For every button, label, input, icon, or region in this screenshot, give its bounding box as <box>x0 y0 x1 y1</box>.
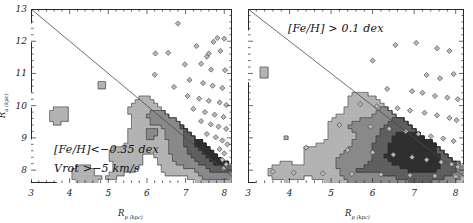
data-point <box>445 95 450 100</box>
data-point <box>191 106 196 111</box>
data-point <box>222 151 227 156</box>
contour-plot-right <box>248 9 464 183</box>
data-point <box>211 39 216 44</box>
data-point <box>395 106 400 111</box>
x-axis-label-sub-left: p (kpc) <box>124 214 142 220</box>
data-point <box>224 126 229 131</box>
data-point <box>447 48 452 53</box>
data-point <box>220 85 225 90</box>
x-axis-label-right: Rp (kpc) <box>345 208 370 220</box>
data-point <box>175 21 180 26</box>
x-tick-left-4: 4 <box>67 188 73 198</box>
y-tick-left-11: 11 <box>7 68 27 78</box>
data-point <box>422 110 427 115</box>
annotation-vrot-left: Vrot >−5 km/s <box>54 162 140 175</box>
y-tick-left-10: 10 <box>7 101 27 111</box>
data-point <box>454 118 459 123</box>
data-point <box>166 50 171 55</box>
data-point <box>152 72 157 77</box>
x-tick-right-6: 6 <box>370 188 376 198</box>
x-tick-left-8: 8 <box>221 188 227 198</box>
data-point <box>434 113 439 118</box>
data-point <box>216 124 221 129</box>
data-point <box>194 43 199 48</box>
contour-plot-left <box>31 9 232 183</box>
data-point <box>424 72 429 77</box>
data-point <box>420 90 425 95</box>
data-point <box>222 68 227 73</box>
data-point <box>217 100 222 105</box>
data-point <box>209 67 214 72</box>
data-point <box>204 131 209 136</box>
x-tick-left-7: 7 <box>183 188 189 198</box>
plot-panel-right <box>248 9 464 183</box>
y-tick-left-8: 8 <box>7 165 27 175</box>
figure-canvas: Ra (kpc) [Fe/H]<−0.35 dex Vrot >−5 km/s … <box>0 0 473 223</box>
data-point <box>385 86 390 91</box>
data-point <box>197 96 202 101</box>
x-tick-left-6: 6 <box>144 188 150 198</box>
data-point <box>206 98 211 103</box>
y-tick-left-13: 13 <box>7 4 27 14</box>
data-point <box>198 119 203 124</box>
data-point <box>185 93 190 98</box>
data-point <box>221 114 226 119</box>
data-point <box>171 84 176 89</box>
x-tick-left-5: 5 <box>105 188 111 198</box>
data-point <box>225 142 230 147</box>
data-point <box>414 40 419 45</box>
annotation-metallicity-left: [Fe/H]<−0.35 dex <box>54 143 159 156</box>
data-point <box>447 115 452 120</box>
data-point <box>200 81 205 86</box>
y-axis-label-text: R <box>0 112 7 118</box>
data-point <box>210 83 215 88</box>
data-point <box>208 122 213 127</box>
data-point <box>441 136 446 141</box>
data-point <box>437 76 442 81</box>
data-point <box>198 61 203 66</box>
x-axis-label-left: Rp (kpc) <box>118 208 143 220</box>
data-point <box>455 97 460 102</box>
data-point <box>434 46 439 51</box>
data-point <box>432 93 437 98</box>
data-point <box>393 42 398 47</box>
data-point <box>222 36 227 41</box>
data-point <box>451 71 456 76</box>
x-tick-right-5: 5 <box>328 188 334 198</box>
x-tick-left-3: 3 <box>28 188 34 198</box>
data-point <box>213 135 218 140</box>
data-point <box>224 102 229 107</box>
data-point <box>370 58 375 63</box>
data-point <box>409 89 414 94</box>
data-point <box>428 134 433 139</box>
data-point <box>212 112 217 117</box>
data-point <box>215 35 220 40</box>
x-tick-right-4: 4 <box>287 188 293 198</box>
data-point <box>407 108 412 113</box>
data-point <box>218 48 223 53</box>
data-point <box>217 147 222 152</box>
data-point <box>153 51 158 56</box>
x-axis-label-sub-right: p (kpc) <box>351 214 369 220</box>
data-point <box>202 110 207 115</box>
plot-panel-left <box>31 9 232 183</box>
y-tick-left-12: 12 <box>7 36 27 46</box>
data-point <box>451 139 456 144</box>
annotation-metallicity-right: [Fe/H] > 0.1 dex <box>288 22 384 35</box>
data-point <box>182 62 187 67</box>
x-tick-right-8: 8 <box>453 188 459 198</box>
x-tick-right-3: 3 <box>245 188 251 198</box>
data-point <box>187 77 192 82</box>
x-tick-right-7: 7 <box>411 188 417 198</box>
y-tick-left-9: 9 <box>7 133 27 143</box>
data-point <box>220 138 225 143</box>
